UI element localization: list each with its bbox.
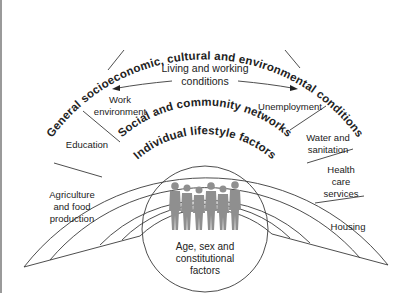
work-environment-label-1: Work — [109, 94, 131, 105]
arrow-right — [238, 81, 292, 88]
divider-work-top — [108, 50, 124, 70]
left-baseline — [24, 236, 140, 267]
health-care-label-1: Health — [327, 164, 354, 175]
arrow-left — [118, 81, 172, 88]
education-label: Education — [66, 139, 108, 150]
water-label-2: sanitation — [308, 144, 349, 155]
health-care-label-3: services — [324, 188, 359, 199]
health-determinants-diagram: General socioeconomic, cultural and envi… — [0, 0, 408, 293]
agriculture-label-2: and food — [54, 201, 91, 212]
right-baseline — [272, 234, 388, 265]
housing-label: Housing — [331, 221, 366, 232]
agriculture-label-1: Agriculture — [49, 189, 94, 200]
core-label-2: constitutional — [176, 253, 234, 264]
health-care-label-2: care — [332, 176, 350, 187]
living-working-label-line1: Living and working — [162, 62, 249, 74]
work-environment-label-2: environment — [94, 106, 147, 117]
core-label-3: factors — [190, 265, 220, 276]
arrowhead-left — [112, 85, 120, 91]
living-working-label-line2: conditions — [181, 75, 228, 87]
unemployment-label: Unemployment — [258, 101, 322, 112]
core-label-1: Age, sex and — [176, 241, 234, 252]
agriculture-label-3: production — [50, 213, 94, 224]
divider-education-agriculture — [54, 163, 102, 177]
water-label-1: Water and — [306, 132, 349, 143]
divider-unemployment-top — [285, 50, 300, 68]
lifestyle-band-label: Individual lifestyle factors — [131, 124, 279, 161]
arrowhead-right — [290, 85, 298, 91]
people-silhouettes-icon — [169, 181, 241, 230]
